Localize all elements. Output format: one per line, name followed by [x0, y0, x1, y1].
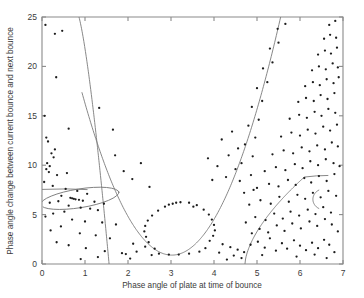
data-point — [331, 141, 333, 143]
data-point — [324, 148, 326, 150]
data-point — [49, 165, 51, 167]
data-point — [243, 192, 245, 194]
data-point — [267, 231, 269, 233]
data-point — [80, 258, 82, 260]
data-point — [273, 212, 275, 214]
data-point — [254, 136, 256, 138]
data-point — [148, 186, 150, 188]
data-point — [276, 28, 278, 30]
data-point — [317, 164, 319, 166]
data-point — [336, 124, 338, 126]
data-point — [316, 225, 318, 227]
data-point — [208, 213, 210, 215]
data-point — [289, 210, 291, 212]
data-point — [308, 150, 310, 152]
data-point — [307, 209, 309, 211]
data-point — [326, 98, 328, 100]
x-tick-label: 6 — [298, 268, 303, 278]
data-point — [322, 126, 324, 128]
data-point — [295, 255, 297, 257]
data-point — [97, 256, 99, 258]
data-point — [298, 114, 300, 116]
data-point — [256, 87, 258, 89]
data-point — [282, 217, 284, 219]
data-point — [144, 246, 146, 248]
data-point — [254, 216, 256, 218]
data-point — [69, 197, 71, 199]
data-point — [262, 67, 264, 69]
data-point — [314, 213, 316, 215]
data-point — [132, 243, 134, 245]
data-point — [203, 209, 205, 211]
data-point — [151, 214, 153, 216]
data-point — [258, 228, 260, 230]
data-point — [286, 248, 288, 250]
data-point — [44, 215, 46, 217]
data-point — [332, 62, 334, 64]
data-point — [60, 195, 62, 197]
data-point — [334, 112, 336, 114]
data-point — [325, 68, 327, 70]
data-point — [323, 239, 325, 241]
data-point — [278, 196, 280, 198]
x-tick-label: 3 — [169, 268, 174, 278]
data-point — [97, 209, 99, 211]
data-point — [213, 224, 215, 226]
data-point — [325, 158, 327, 160]
data-point — [79, 232, 81, 234]
data-point — [332, 162, 334, 164]
data-point — [277, 185, 279, 187]
data-point — [112, 128, 114, 130]
data-point — [54, 33, 56, 35]
data-point — [44, 24, 46, 26]
data-point — [252, 189, 254, 191]
data-point — [324, 49, 326, 51]
data-point — [218, 251, 220, 253]
data-point — [225, 176, 227, 178]
data-point — [252, 155, 254, 157]
data-point — [326, 257, 328, 259]
data-point — [204, 247, 206, 249]
data-point — [322, 206, 324, 208]
data-point — [221, 138, 223, 140]
data-point — [48, 171, 50, 173]
data-points — [43, 20, 341, 261]
x-tick-label: 4 — [212, 268, 217, 278]
data-point — [251, 106, 253, 108]
data-point — [275, 166, 277, 168]
data-point — [115, 223, 117, 225]
data-point — [281, 242, 283, 244]
data-point — [61, 30, 63, 32]
data-point — [234, 168, 236, 170]
data-point — [303, 177, 305, 179]
y-axis-label: Phase angle change between current bounc… — [6, 27, 15, 255]
x-tick-label: 7 — [341, 268, 346, 278]
data-point — [334, 20, 336, 22]
data-point — [304, 85, 306, 87]
data-point — [237, 249, 239, 251]
data-point — [287, 179, 289, 181]
data-point — [301, 146, 303, 148]
data-point — [330, 52, 332, 54]
data-point — [250, 174, 252, 176]
data-point — [261, 254, 263, 256]
data-point — [299, 245, 301, 247]
data-point — [66, 172, 68, 174]
data-point — [314, 132, 316, 134]
data-point — [296, 194, 298, 196]
data-point — [317, 53, 319, 55]
data-point — [243, 251, 245, 253]
data-point — [237, 147, 239, 149]
data-point — [297, 101, 299, 103]
data-point — [129, 257, 131, 259]
data-point — [276, 224, 278, 226]
data-point — [209, 240, 211, 242]
data-point — [211, 179, 213, 181]
data-point — [121, 252, 123, 254]
data-point — [284, 23, 286, 25]
data-point — [318, 175, 320, 177]
data-point — [45, 168, 47, 170]
data-point — [125, 253, 127, 255]
data-point — [214, 229, 216, 231]
data-point — [304, 198, 306, 200]
